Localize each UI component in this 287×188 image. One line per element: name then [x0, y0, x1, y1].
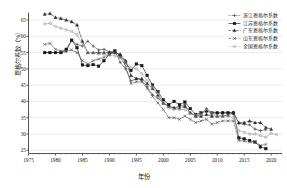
legend-marker-icon: [228, 27, 241, 34]
legend-item-2[interactable]: 广东恩格尔系数: [228, 27, 287, 35]
legend-marker-icon: [228, 35, 241, 42]
engel-coefficient-chart: 恩格尔系数（%） 253035404550556065 年份 浙江恩格尔系数江苏…: [0, 0, 287, 188]
legend-label: 广东恩格尔系数: [243, 27, 278, 34]
legend-item-3[interactable]: 山东恩格尔系数: [228, 35, 287, 43]
x-axis-title: 年份: [0, 172, 287, 181]
x-tick-label: 1980: [50, 157, 61, 163]
chart-legend: 浙江恩格尔系数江苏恩格尔系数广东恩格尔系数山东恩格尔系数全国恩格尔系数: [228, 12, 287, 50]
legend-item-1[interactable]: 江苏恩格尔系数: [228, 20, 287, 28]
y-tick-label: 60: [21, 33, 26, 39]
series-line-1: [43, 39, 267, 150]
x-tick-label: 2005: [185, 157, 196, 163]
x-tick-label: 2010: [212, 157, 223, 163]
x-tick-label: 1990: [104, 157, 115, 163]
x-tick-label: 2000: [158, 157, 169, 163]
legend-item-0[interactable]: 浙江恩格尔系数: [228, 12, 287, 20]
legend-marker-icon: [228, 20, 241, 27]
legend-label: 全国恩格尔系数: [243, 43, 278, 50]
legend-label: 浙江恩格尔系数: [243, 12, 278, 19]
x-tick-label: 2015: [239, 157, 250, 163]
x-tick-label: 2020: [266, 157, 277, 163]
legend-label: 山东恩格尔系数: [243, 35, 278, 42]
x-tick-label: 1995: [131, 157, 142, 163]
legend-marker-icon: [228, 43, 241, 50]
x-tick-label: 1975: [23, 157, 34, 163]
y-tick-label: 50: [21, 66, 26, 72]
y-tick-label: 55: [21, 50, 26, 56]
y-tick-label: 35: [21, 115, 26, 121]
y-tick-label: 65: [21, 17, 26, 23]
series-line-3: [43, 42, 267, 147]
x-tick-label: 1985: [77, 157, 88, 163]
y-tick-label: 25: [21, 147, 26, 153]
legend-item-4[interactable]: 全国恩格尔系数: [228, 42, 287, 50]
y-tick-label: 45: [21, 82, 26, 88]
legend-label: 江苏恩格尔系数: [243, 20, 278, 27]
y-tick-label: 40: [21, 98, 26, 104]
legend-marker-icon: [228, 12, 241, 19]
y-tick-label: 30: [21, 131, 26, 137]
